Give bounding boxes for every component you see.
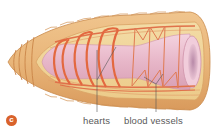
label-blood-vessels: blood vessels [124, 115, 183, 126]
panel-label-badge: c [6, 115, 17, 126]
label-hearts: hearts [83, 115, 110, 126]
earthworm-diagram [0, 0, 216, 132]
